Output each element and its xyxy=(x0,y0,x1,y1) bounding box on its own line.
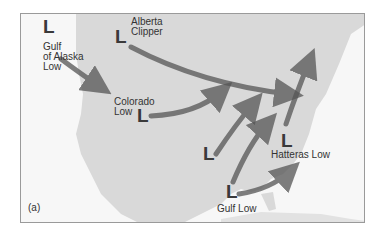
label-hatteras-low: Hatteras Low xyxy=(271,150,330,160)
label-alberta-clipper: Alberta Clipper xyxy=(131,17,163,37)
label-gulf-of-alaska: Gulf of Alaska Low xyxy=(43,42,84,72)
label-gulf-low: Gulf Low xyxy=(217,204,256,214)
low-symbol-unlabeled: L xyxy=(203,144,215,163)
low-symbol-gulf: L xyxy=(226,182,238,201)
low-symbol-gulf-of-alaska: L xyxy=(43,17,55,36)
map-frame: L Gulf of Alaska Low L Alberta Clipper C… xyxy=(20,13,365,223)
figure-label: (a) xyxy=(28,203,40,213)
florida xyxy=(261,192,276,211)
low-symbol-colorado: L xyxy=(137,106,149,125)
low-symbol-hatteras: L xyxy=(281,131,293,150)
low-symbol-alberta-clipper: L xyxy=(115,27,127,46)
